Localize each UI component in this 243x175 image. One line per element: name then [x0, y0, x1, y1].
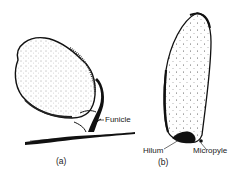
- caption-a: (a): [56, 157, 66, 166]
- branch: [25, 132, 135, 145]
- ovule-body: [15, 38, 95, 118]
- panel-a-ovule: [15, 38, 135, 145]
- micropyle: [199, 139, 203, 143]
- label-hilum: Hilum: [143, 147, 163, 155]
- seed-body: [164, 13, 211, 142]
- label-micropyle: Micropyle: [193, 147, 227, 155]
- caption-b: (b): [158, 158, 168, 167]
- panel-b-seed: [164, 13, 211, 149]
- hilum-leader-line: [164, 140, 179, 149]
- label-funicle: Funicle: [105, 116, 131, 124]
